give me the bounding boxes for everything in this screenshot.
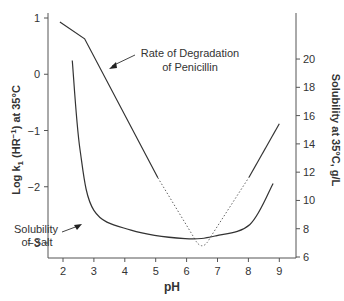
chart: 23456789 10−1−2−3 68101214161820 pH Log … [0, 0, 344, 301]
left-y-axis-ticks: 10−1−2−3 [27, 12, 48, 249]
right-y-tick-label: 20 [303, 53, 315, 65]
right-y-tick-label: 18 [303, 81, 315, 93]
x-axis-ticks: 23456789 [60, 258, 282, 277]
left-y-tick-label: 0 [34, 68, 40, 80]
penicillin-degradation-extrapolated [158, 177, 249, 246]
annotation-salt: Solubility of Salt [14, 223, 82, 248]
penicillin-degradation-line [249, 124, 279, 177]
left-y-tick-label: 1 [34, 12, 40, 24]
right-y-tick-label: 16 [303, 110, 315, 122]
x-tick-label: 2 [60, 265, 66, 277]
x-tick-label: 9 [276, 265, 282, 277]
right-y-axis-ticks: 68101214161820 [296, 53, 315, 263]
annotation-penicillin-line2: of Penicillin [162, 61, 218, 73]
x-tick-label: 8 [245, 265, 251, 277]
x-tick-label: 3 [91, 265, 97, 277]
x-tick-label: 5 [153, 265, 159, 277]
annotation-salt-line2: of Salt [21, 236, 52, 248]
x-tick-label: 6 [184, 265, 190, 277]
right-y-tick-label: 14 [303, 138, 315, 150]
salt-solubility-curve [72, 60, 273, 238]
right-y-tick-label: 6 [303, 251, 309, 263]
left-y-tick-label: −1 [27, 125, 40, 137]
annotation-salt-line1: Solubility [14, 223, 59, 235]
right-y-tick-label: 12 [303, 166, 315, 178]
left-y-tick-label: −2 [27, 181, 40, 193]
x-tick-label: 7 [214, 265, 220, 277]
arrowhead-icon [109, 62, 117, 69]
annotation-penicillin: Rate of Degradation of Penicillin [109, 47, 239, 73]
annotation-penicillin-line1: Rate of Degradation [141, 47, 239, 59]
x-axis-label: pH [164, 280, 180, 294]
left-y-axis-label: Log k1 (HR−1) at 35°C [9, 85, 25, 195]
right-y-tick-label: 8 [303, 223, 309, 235]
right-y-axis-label: Solubility at 35°C, g/L [330, 74, 342, 187]
x-tick-label: 4 [122, 265, 128, 277]
right-y-tick-label: 10 [303, 194, 315, 206]
